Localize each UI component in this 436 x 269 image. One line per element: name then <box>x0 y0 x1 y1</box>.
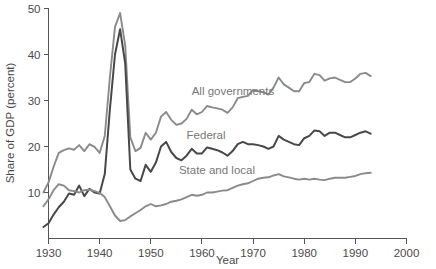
x-tick-label-2000: 2000 <box>394 247 420 259</box>
series-line-state-and-local <box>43 173 370 221</box>
y-tick-label-20: 20 <box>28 141 41 153</box>
x-tick-label-1940: 1940 <box>87 247 113 259</box>
y-tick-label-30: 30 <box>28 95 41 107</box>
series-label-state-and-local: State and local <box>179 164 255 176</box>
series-line-federal <box>43 29 370 227</box>
series-annotations: All governmentsFederalState and local <box>179 85 274 176</box>
chart-container: 1020304050193019401950196019701980199020… <box>0 0 436 269</box>
x-tick-label-1970: 1970 <box>240 247 266 259</box>
y-tick-label-50: 50 <box>28 3 41 15</box>
series-label-all-governments: All governments <box>192 85 275 97</box>
series-label-federal: Federal <box>187 129 226 141</box>
x-axis-title: Year <box>216 254 239 266</box>
x-tick-label-1980: 1980 <box>291 247 317 259</box>
x-tick-label-1930: 1930 <box>36 247 62 259</box>
y-tick-label-40: 40 <box>28 49 41 61</box>
x-tick-label-1990: 1990 <box>343 247 369 259</box>
y-tick-label-10: 10 <box>28 187 41 199</box>
x-tick-label-1960: 1960 <box>189 247 215 259</box>
line-chart: 1020304050193019401950196019701980199020… <box>0 0 436 269</box>
x-tick-label-1950: 1950 <box>138 247 164 259</box>
data-series <box>43 13 370 227</box>
y-axis-title: Share of GDP (percent) <box>4 63 16 184</box>
